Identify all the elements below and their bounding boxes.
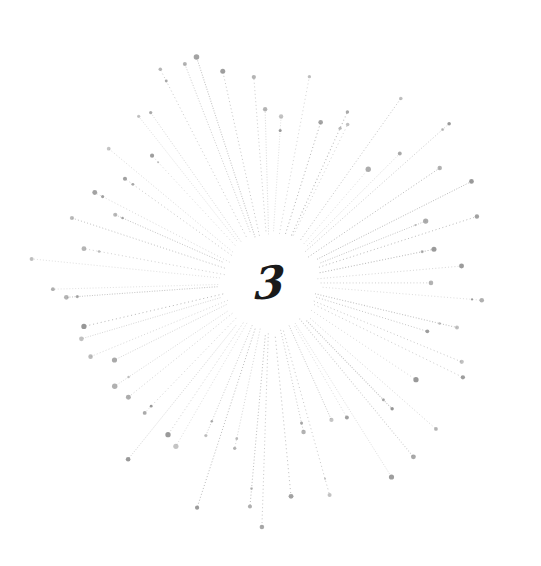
- ray-end-dot: [389, 474, 394, 479]
- ray: [314, 305, 463, 378]
- ray-end-dot: [475, 214, 479, 218]
- ray-end-dot: [324, 478, 326, 480]
- ray: [311, 310, 416, 379]
- ray-end-dot: [195, 506, 199, 510]
- ray-end-dot: [263, 107, 267, 111]
- ray: [286, 122, 321, 233]
- ray: [281, 330, 304, 432]
- ray-end-dot: [157, 161, 159, 163]
- ray-end-dot: [107, 147, 111, 151]
- ray: [292, 112, 348, 235]
- ray: [197, 329, 255, 508]
- ray-end-dot: [64, 295, 69, 300]
- ray: [185, 64, 250, 232]
- ray-end-dot: [51, 287, 55, 291]
- ray-end-dot: [194, 54, 200, 60]
- ray: [262, 333, 268, 526]
- ray-end-dot: [76, 295, 79, 298]
- ray: [254, 77, 266, 231]
- ray-end-dot: [159, 68, 163, 72]
- ray-end-dot: [471, 298, 473, 300]
- ray-end-dot: [112, 357, 117, 362]
- ray-end-dot: [113, 213, 117, 217]
- ray-end-dot: [211, 420, 214, 423]
- ray-end-dot: [423, 218, 428, 223]
- ray-end-dot: [318, 120, 323, 125]
- ray-end-dot: [131, 183, 134, 186]
- ray-end-dot: [438, 166, 442, 170]
- ray-end-dot: [150, 405, 153, 408]
- ray: [84, 249, 225, 275]
- ray: [115, 311, 228, 386]
- ray: [304, 169, 368, 244]
- ray-end-dot: [143, 411, 147, 415]
- ray-end-dot: [165, 432, 170, 437]
- ray-end-dot: [121, 217, 124, 220]
- ray: [310, 318, 436, 429]
- ray-end-dot: [459, 264, 464, 269]
- ray-end-dot: [460, 360, 464, 364]
- ray-end-dot: [469, 179, 474, 184]
- ray: [306, 321, 392, 409]
- ray: [145, 318, 237, 413]
- ray: [53, 284, 218, 289]
- ray: [319, 217, 477, 268]
- ray-end-dot: [301, 430, 305, 434]
- ray-end-dot: [79, 336, 84, 341]
- ray-end-dot: [88, 354, 93, 359]
- ray: [295, 323, 391, 477]
- ray-end-dot: [421, 250, 424, 253]
- ray-end-dot: [165, 79, 168, 82]
- ray: [152, 156, 235, 246]
- ray-end-dot: [447, 122, 451, 126]
- ray: [273, 117, 281, 232]
- ray-end-dot: [183, 62, 187, 66]
- ray: [301, 98, 401, 239]
- ray-end-dot: [390, 407, 393, 410]
- handwritten-numeral: 3: [254, 259, 286, 307]
- ray-end-dot: [441, 128, 444, 131]
- ray: [308, 168, 440, 257]
- ray: [293, 124, 347, 235]
- ray-end-dot: [434, 427, 438, 431]
- ray-end-dot: [81, 324, 86, 329]
- ray: [168, 323, 243, 435]
- ray: [72, 218, 225, 268]
- ray: [139, 116, 237, 240]
- ray: [323, 287, 482, 300]
- ray-end-dot: [30, 257, 34, 261]
- ray: [114, 304, 226, 360]
- ray: [81, 298, 220, 339]
- ray: [265, 109, 269, 234]
- ray-end-dot: [204, 434, 207, 437]
- ray: [316, 297, 427, 331]
- ray: [275, 337, 291, 497]
- ray-end-dot: [438, 322, 441, 325]
- ray: [235, 329, 261, 449]
- ray-end-dot: [235, 437, 238, 440]
- ray: [250, 335, 265, 506]
- ray-end-dot: [346, 110, 349, 113]
- ray-end-dot: [431, 247, 436, 252]
- ray-end-dot: [366, 167, 371, 172]
- ray: [176, 323, 247, 446]
- ray-end-dot: [411, 454, 416, 459]
- ray-end-dot: [149, 111, 152, 114]
- ray-end-dot: [92, 190, 97, 195]
- ray-end-dot: [127, 376, 130, 379]
- ray: [125, 179, 232, 256]
- ray: [95, 193, 230, 263]
- ray-end-dot: [413, 377, 418, 382]
- ray: [307, 154, 400, 246]
- ray-end-dot: [173, 444, 178, 449]
- ray: [128, 313, 232, 397]
- ray-end-dot: [414, 224, 416, 226]
- ray-end-dot: [98, 250, 101, 253]
- ray: [91, 300, 228, 356]
- ray-end-dot: [70, 216, 74, 220]
- ray-end-dot: [82, 246, 87, 251]
- ray-end-dot: [250, 487, 253, 490]
- ray-end-dot: [101, 195, 104, 198]
- ray-end-dot: [126, 395, 131, 400]
- ray-end-dot: [345, 416, 349, 420]
